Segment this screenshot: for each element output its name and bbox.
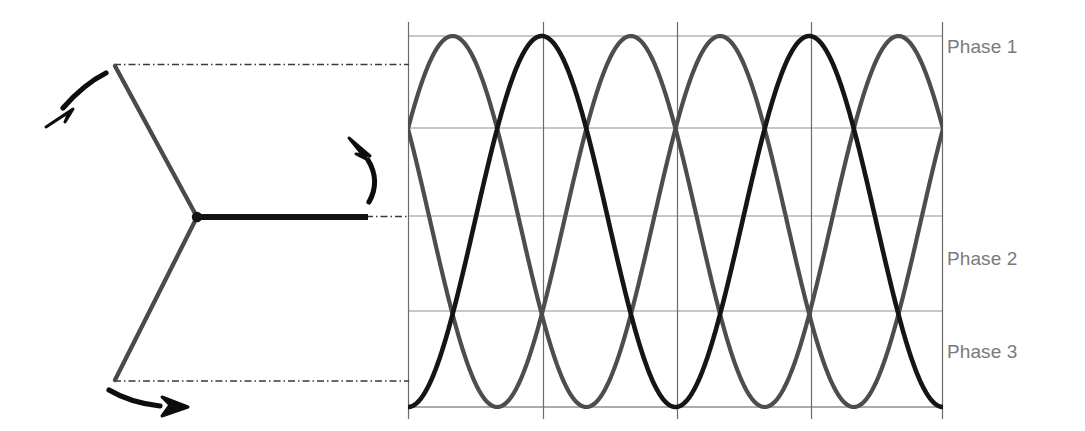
vector-spoke-phase-1	[115, 66, 197, 217]
rotation-arrow-top-left-head-icon	[46, 109, 73, 127]
waveform-group	[408, 36, 943, 407]
rotation-arrow-right-head-icon	[349, 138, 370, 159]
chart-grid	[408, 22, 943, 419]
vector-origin-node	[192, 212, 202, 222]
figure-canvas: Phase 1 Phase 2 Phase 3	[0, 0, 1085, 431]
legend-label-phase-3: Phase 3	[947, 341, 1017, 363]
rotation-arrow-bottom-left-icon	[109, 390, 160, 406]
legend-label-phase-2: Phase 2	[947, 248, 1017, 270]
rotation-arrow-top-left-icon	[63, 73, 106, 108]
rotation-arrows	[46, 73, 375, 416]
three-phase-figure	[0, 0, 1085, 431]
rotation-arrow-right-icon	[368, 160, 375, 202]
vector-star-diagram	[115, 66, 368, 380]
legend-label-phase-1: Phase 1	[947, 36, 1017, 58]
vector-spoke-phase-3	[115, 217, 197, 380]
rotation-arrow-bottom-left-head-icon	[162, 397, 188, 416]
projection-lines	[114, 65, 409, 382]
